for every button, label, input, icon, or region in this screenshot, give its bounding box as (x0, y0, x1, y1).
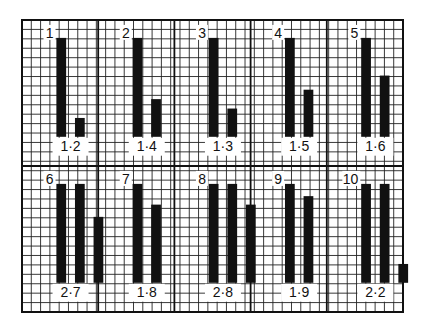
ratio-label: 1·5 (289, 138, 309, 154)
bar-panel-3-1 (209, 38, 219, 137)
panel-5: 51·6 (348, 25, 393, 156)
bar-panel-10-1 (361, 184, 371, 283)
bar-panel-5-1 (361, 38, 371, 137)
panel-number-label: 2 (122, 25, 130, 41)
panel-number-label: 9 (274, 171, 282, 187)
bar-panel-10-2 (380, 184, 390, 283)
panel-number-label: 10 (343, 171, 359, 187)
bar-panel-4-1 (285, 38, 295, 137)
bar-panel-8-2 (227, 184, 237, 283)
panel-number-label: 4 (274, 25, 282, 41)
bar-panel-8-1 (209, 184, 219, 283)
bar-panel-6-1 (56, 184, 66, 283)
ratio-label: 1·9 (289, 284, 309, 300)
panel-number-label: 1 (46, 25, 54, 41)
bar-panel-10-3 (398, 264, 408, 283)
bar-panel-6-2 (75, 184, 85, 283)
panel-3: 31·3 (196, 25, 241, 156)
bar-panel-3-2 (227, 109, 237, 137)
ratio-label: 1·8 (137, 284, 157, 300)
ratio-label: 1·6 (365, 138, 385, 154)
bar-panel-9-1 (285, 184, 295, 283)
bar-panel-5-2 (380, 76, 390, 137)
bar-panel-4-2 (304, 90, 314, 137)
bar-panel-7-2 (151, 205, 161, 283)
ratio-label: 2·7 (60, 284, 80, 300)
panel-number-label: 7 (122, 171, 130, 187)
ratio-label: 1·4 (137, 138, 157, 154)
panel-number-label: 8 (198, 171, 206, 187)
ratio-label: 1·2 (60, 138, 80, 154)
ratio-label: 2·8 (213, 284, 233, 300)
bar-panel-9-2 (304, 196, 314, 283)
bar-panel-1-2 (75, 118, 85, 137)
ratio-label: 2·2 (365, 284, 385, 300)
bar-ratio-grid-diagram: 11·221·431·341·551·662·771·882·891·9102·… (0, 0, 422, 332)
bar-panel-1-1 (56, 38, 66, 137)
bar-panel-7-1 (133, 184, 143, 283)
ratio-label: 1·3 (213, 138, 233, 154)
bar-panel-8-3 (246, 205, 256, 283)
panel-2: 21·4 (120, 25, 165, 156)
panel-number-label: 5 (351, 25, 359, 41)
bar-panel-2-1 (133, 38, 143, 137)
panel-number-label: 3 (198, 25, 206, 41)
bar-panel-2-2 (151, 99, 161, 137)
panel-number-label: 6 (46, 171, 54, 187)
bar-panel-6-3 (94, 217, 104, 283)
